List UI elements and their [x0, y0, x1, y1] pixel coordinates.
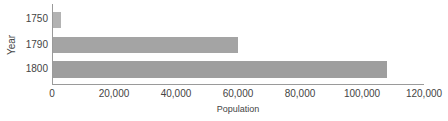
- y-axis-label: Year: [2, 35, 22, 55]
- bar-1750: [53, 12, 61, 28]
- x-tick-label: 80,000: [285, 88, 316, 99]
- bar-1800: [53, 61, 387, 78]
- x-tick-label: 100,000: [344, 88, 380, 99]
- x-tick-label: 40,000: [161, 88, 192, 99]
- y-tick-label: 1790: [20, 39, 48, 50]
- y-tick-label: 1750: [20, 13, 48, 24]
- x-tick-label: 20,000: [99, 88, 130, 99]
- population-bar-chart: Year 1750 1790 1800 0 20,000 40,000 60,0…: [0, 0, 448, 121]
- x-tick-label: 120,000: [406, 88, 442, 99]
- x-tick-label: 60,000: [223, 88, 254, 99]
- x-axis-label: Population: [217, 104, 260, 114]
- bar-1790: [53, 37, 238, 53]
- y-tick-label: 1800: [20, 63, 48, 74]
- x-axis-line: [52, 84, 424, 85]
- x-tick-label: 0: [49, 88, 55, 99]
